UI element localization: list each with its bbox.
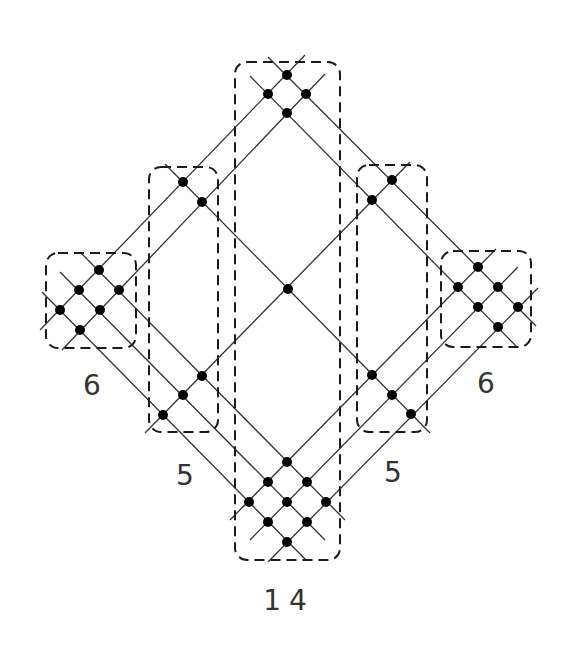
lattice-dot [244, 497, 254, 507]
lattice-dot [197, 197, 207, 207]
lattice-dot [178, 177, 188, 187]
lattice-dot [55, 305, 65, 315]
lattice-dot [158, 410, 168, 420]
lattice-dot [74, 285, 84, 295]
lattice-lines [40, 55, 538, 562]
lattice-dot [197, 371, 207, 381]
lattice-dot [114, 285, 124, 295]
lattice-dot [367, 195, 377, 205]
lattice-dot [282, 457, 292, 467]
lattice-dot [453, 282, 463, 292]
group-boxes [46, 62, 531, 560]
lattice-dot [387, 175, 397, 185]
lattice-dot [94, 265, 104, 275]
lattice-dot [263, 517, 273, 527]
lattice-dots [55, 70, 523, 547]
label-left-6: 6 [83, 369, 101, 402]
lattice-dot [367, 370, 377, 380]
lattice-dot [75, 325, 85, 335]
lattice-dot [321, 497, 331, 507]
label-right-6: 6 [477, 367, 495, 400]
lattice-dot [473, 262, 483, 272]
group-box-left-6 [46, 253, 136, 348]
lattice-dot [302, 517, 312, 527]
lattice-dot [493, 282, 503, 292]
lattice-dot [493, 322, 503, 332]
group-box-center-14 [235, 62, 340, 560]
label-left-5: 5 [176, 459, 194, 492]
lattice-dot [513, 302, 523, 312]
dot-grouping-diagram: 6 5 14 5 6 [0, 0, 567, 645]
lattice-dot [473, 302, 483, 312]
lattice-dot [302, 477, 312, 487]
group-labels: 6 5 14 5 6 [83, 367, 495, 617]
lattice-dot [282, 497, 292, 507]
lattice-dot [283, 284, 293, 294]
lattice-dot [387, 390, 397, 400]
label-right-5: 5 [384, 456, 402, 489]
lattice-dot [406, 409, 416, 419]
lattice-dot [263, 89, 273, 99]
lattice-dot [95, 305, 105, 315]
lattice-dot [282, 537, 292, 547]
label-center-14: 14 [263, 584, 315, 617]
lattice-dot [282, 108, 292, 118]
lattice-dot [263, 477, 273, 487]
lattice-dot [282, 70, 292, 80]
lattice-dot [178, 390, 188, 400]
lattice-dot [301, 89, 311, 99]
